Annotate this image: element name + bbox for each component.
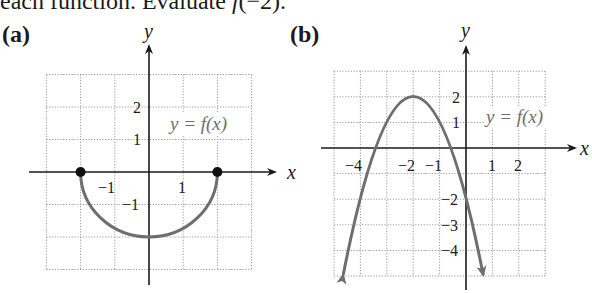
- chart-b-y-tick: −2: [441, 191, 458, 208]
- chart-a-endpoint-right: [212, 167, 222, 177]
- chart-a: x y −1 1 2 1 −1 y = f(x): [29, 20, 296, 285]
- graphs: x y −1 1 2 1 −1 y = f(x): [0, 0, 592, 293]
- chart-b-function-label: y = f(x): [484, 106, 543, 128]
- chart-b-x-tick: 1: [488, 157, 496, 174]
- chart-a-endpoint-left: [76, 167, 86, 177]
- chart-b-y-tick: 2: [452, 89, 460, 106]
- chart-b-x-axis-label: x: [579, 137, 589, 159]
- chart-b-y-tick: −3: [441, 217, 458, 234]
- chart-b-y-tick: −4: [441, 242, 458, 259]
- chart-a-x-axis-label: x: [286, 161, 296, 183]
- chart-b: x y −4 −2 −1 1 2 2 1 −2 −3 −4 y = f(x): [321, 19, 589, 290]
- chart-b-x-tick: 2: [514, 157, 522, 174]
- chart-a-y-axis-label: y: [142, 20, 153, 43]
- chart-a-y-tick: 1: [133, 131, 141, 148]
- chart-b-x-tick: −2: [398, 157, 415, 174]
- chart-b-x-tick: −4: [345, 157, 362, 174]
- chart-b-x-tick: −1: [425, 157, 442, 174]
- chart-a-x-tick: −1: [98, 179, 115, 196]
- chart-a-y-tick: −1: [122, 196, 139, 213]
- chart-a-x-tick: 1: [178, 179, 186, 196]
- chart-a-function-label: y = f(x): [168, 113, 227, 135]
- chart-a-y-tick: 2: [133, 99, 141, 116]
- chart-b-y-axis-label: y: [459, 19, 470, 42]
- chart-b-y-tick: 1: [452, 114, 460, 131]
